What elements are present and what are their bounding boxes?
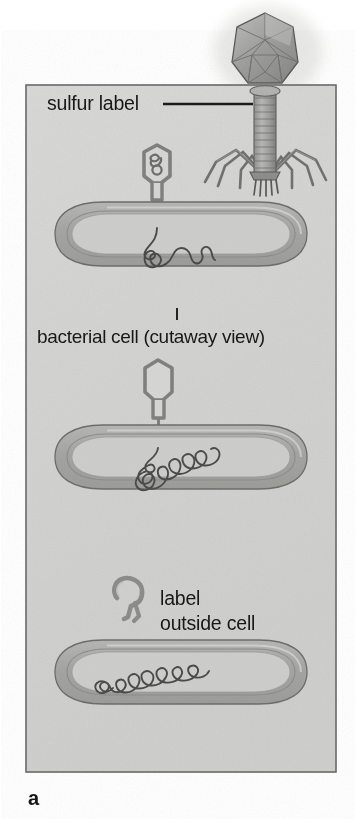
hershey-chase-figure: sulfur label — [0, 0, 355, 819]
panel-letter: a — [28, 787, 40, 809]
panel-overlay-grain — [26, 85, 336, 772]
figure-root: sulfur label — [0, 0, 355, 819]
